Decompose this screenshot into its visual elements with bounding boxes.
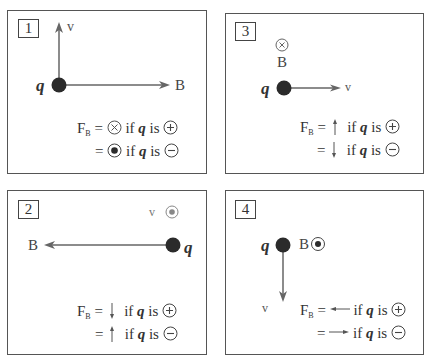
panel-4-formula-line-1: FB = if q is (300, 302, 406, 320)
arrow-left-icon (330, 304, 350, 314)
panel-4-formula-line-2: = if q is (317, 325, 406, 341)
negative-charge-icon (391, 325, 406, 340)
panel-4-field-label: B (299, 237, 309, 252)
charge-dot-icon (276, 238, 291, 253)
panel-4-velocity-label: v (262, 302, 268, 314)
arrow-right-icon (329, 327, 349, 337)
velocity-arrow-down-icon (279, 245, 287, 302)
positive-charge-icon (391, 302, 406, 317)
field-out-of-page-icon (312, 238, 325, 251)
